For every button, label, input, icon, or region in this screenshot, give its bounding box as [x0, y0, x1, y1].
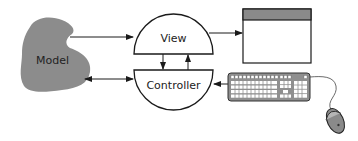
display-window-icon: [243, 9, 311, 63]
controller-node: Controller: [134, 70, 213, 110]
window-titlebar: [243, 9, 311, 20]
mvc-diagram: Model View Controller: [0, 0, 358, 141]
view-label: View: [160, 32, 186, 45]
keyboard-icon: [228, 73, 310, 101]
model-label: Model: [36, 54, 69, 67]
model-node: Model: [21, 18, 91, 92]
mouse-cable: [310, 77, 336, 110]
mouse-icon: [323, 106, 348, 136]
view-node: View: [134, 14, 213, 54]
controller-label: Controller: [146, 79, 201, 92]
